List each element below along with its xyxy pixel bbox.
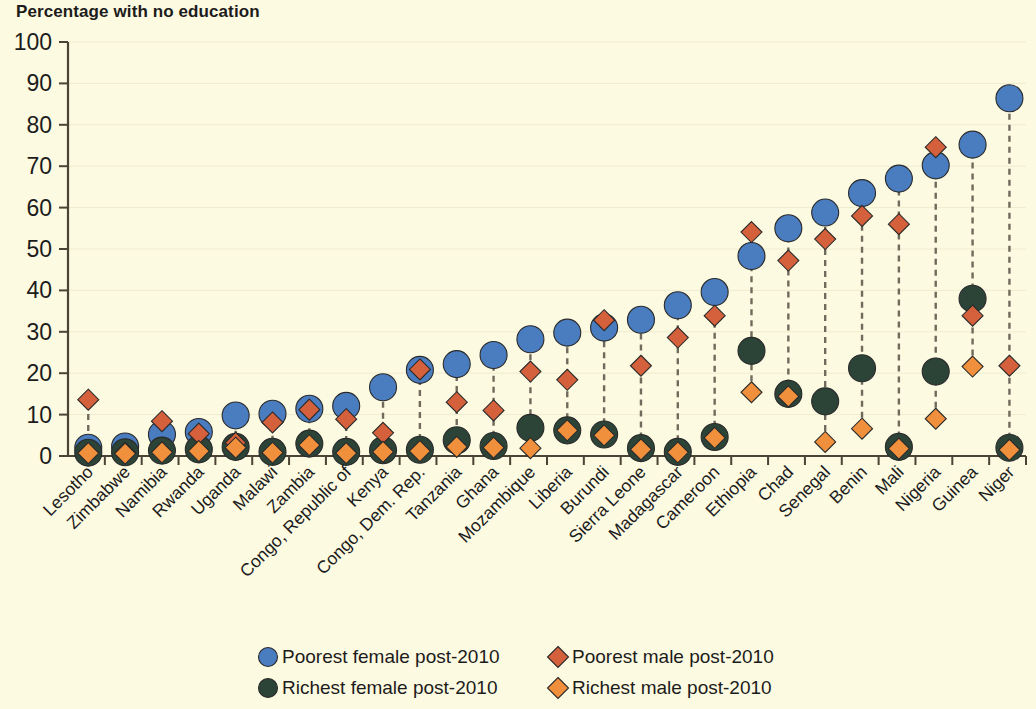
data-point-circle bbox=[480, 341, 507, 368]
y-tick-label: 0 bbox=[39, 443, 52, 469]
y-tick-label: 20 bbox=[26, 360, 52, 386]
data-point-diamond bbox=[888, 214, 909, 235]
legend-label: Richest male post-2010 bbox=[572, 677, 772, 698]
legend-marker-diamond bbox=[548, 647, 569, 668]
y-axis: 0102030405060708090100 bbox=[14, 29, 68, 469]
x-tick-label: Niger bbox=[975, 462, 1019, 506]
data-point-diamond bbox=[704, 305, 725, 326]
legend-label: Richest female post-2010 bbox=[282, 677, 497, 698]
legend-marker-circle bbox=[259, 648, 278, 667]
data-point-diamond bbox=[815, 229, 836, 250]
data-point-circle bbox=[849, 180, 876, 207]
legend-label: Poorest female post-2010 bbox=[282, 646, 500, 667]
y-tick-label: 40 bbox=[26, 277, 52, 303]
data-point-circle bbox=[738, 337, 765, 364]
y-tick-label: 50 bbox=[26, 236, 52, 262]
y-tick-label: 100 bbox=[14, 29, 52, 55]
data-point-circle bbox=[959, 131, 986, 158]
y-tick-label: 70 bbox=[26, 153, 52, 179]
y-tick-label: 10 bbox=[26, 402, 52, 428]
data-point-diamond bbox=[741, 382, 762, 403]
x-axis bbox=[68, 456, 1026, 465]
legend-marker-circle bbox=[259, 679, 278, 698]
data-point-diamond bbox=[852, 418, 873, 439]
data-point-circle bbox=[812, 199, 839, 226]
data-point-diamond bbox=[78, 389, 99, 410]
data-point-circle bbox=[443, 351, 470, 378]
data-point-diamond bbox=[962, 356, 983, 377]
data-point-diamond bbox=[667, 327, 688, 348]
data-point-circle bbox=[922, 358, 949, 385]
x-tick-labels: LesothoZimbabweNamibiaRwandaUgandaMalawi… bbox=[39, 462, 1018, 582]
gridlines bbox=[68, 42, 1026, 415]
legend-marker-diamond bbox=[548, 678, 569, 699]
data-point-circle bbox=[664, 292, 691, 319]
y-tick-label: 30 bbox=[26, 319, 52, 345]
data-point-circle bbox=[738, 243, 765, 270]
data-point-circle bbox=[222, 402, 249, 429]
data-point-circle bbox=[812, 388, 839, 415]
chart-container: Percentage with no education 01020304050… bbox=[0, 0, 1036, 709]
data-point-circle bbox=[370, 374, 397, 401]
data-point-circle bbox=[849, 355, 876, 382]
y-tick-label: 90 bbox=[26, 70, 52, 96]
legend-label: Poorest male post-2010 bbox=[572, 646, 774, 667]
scatter-plot: 0102030405060708090100 LesothoZimbabweNa… bbox=[0, 0, 1036, 709]
data-point-circle bbox=[996, 85, 1023, 112]
data-point-circle bbox=[775, 215, 802, 242]
data-point-circle bbox=[885, 165, 912, 192]
x-tick-label: Benin bbox=[825, 462, 871, 508]
data-point-diamond bbox=[778, 250, 799, 271]
data-points bbox=[75, 85, 1023, 466]
data-point-circle bbox=[554, 319, 581, 346]
connector-lines bbox=[88, 98, 1009, 453]
y-tick-label: 60 bbox=[26, 195, 52, 221]
data-point-diamond bbox=[520, 361, 541, 382]
data-point-diamond bbox=[852, 205, 873, 226]
data-point-diamond bbox=[483, 400, 504, 421]
data-point-circle bbox=[627, 306, 654, 333]
data-point-diamond bbox=[741, 222, 762, 243]
data-point-diamond bbox=[815, 431, 836, 452]
chart-legend: Poorest female post-2010Poorest male pos… bbox=[259, 646, 774, 698]
y-tick-label: 80 bbox=[26, 112, 52, 138]
data-point-diamond bbox=[446, 392, 467, 413]
data-point-diamond bbox=[925, 408, 946, 429]
data-point-diamond bbox=[557, 369, 578, 390]
data-point-circle bbox=[517, 326, 544, 353]
data-point-circle bbox=[701, 279, 728, 306]
